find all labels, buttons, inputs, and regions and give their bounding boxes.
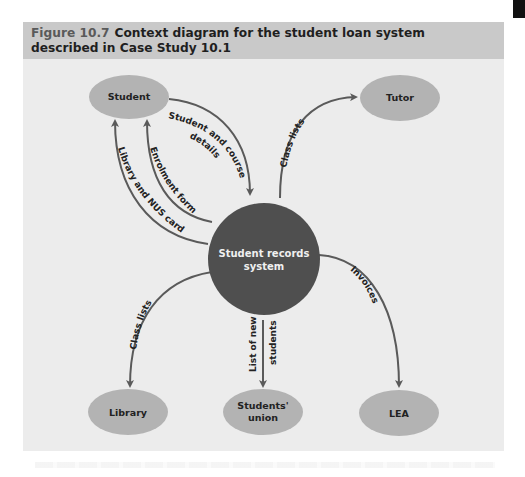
flow-arrow-class-lists-library xyxy=(130,272,212,386)
flow-label-class-lists-tutor: Class lists xyxy=(278,116,306,168)
page-bleed-through xyxy=(35,462,495,468)
flow-arrow-class-lists-tutor xyxy=(280,97,356,198)
flow-label-list-new-students-line1: List of new xyxy=(248,316,258,372)
flow-label-invoices: Invoices xyxy=(349,264,381,305)
figure-frame: Figure 10.7Context diagram for the stude… xyxy=(23,22,504,451)
flow-label-list-new-students-line2: students xyxy=(268,320,278,365)
entity-student-label: Student xyxy=(108,91,151,102)
entity-students-union-label-line2: union xyxy=(248,412,278,423)
entity-tutor: Tutor xyxy=(360,75,440,121)
entity-library: Library xyxy=(88,389,168,435)
page-corner-mark xyxy=(513,0,525,18)
entity-students-union: Students' union xyxy=(223,389,303,435)
entity-tutor-label: Tutor xyxy=(386,92,414,103)
process-label-line1: Student records xyxy=(219,248,310,259)
entity-lea-label: LEA xyxy=(389,408,410,419)
entity-students-union-label-line1: Students' xyxy=(237,400,288,411)
entity-lea: LEA xyxy=(359,390,439,436)
process-student-records-system: Student records system xyxy=(208,203,320,315)
flow-label-class-lists-library: Class lists xyxy=(128,298,154,350)
entity-student: Student xyxy=(89,75,169,119)
process-label-line2: system xyxy=(244,261,284,272)
context-diagram: Student Tutor Library Students' union LE… xyxy=(23,22,504,451)
entity-library-label: Library xyxy=(109,407,148,418)
